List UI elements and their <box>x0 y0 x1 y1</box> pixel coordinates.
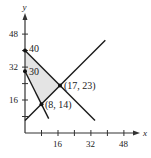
label-17-23: (17, 23) <box>64 80 96 92</box>
x-tick-label-16: 16 <box>53 139 63 149</box>
label-8-14: (8, 14) <box>45 99 72 111</box>
feasible-region-graph: y x 16 32 48 16 32 48 40 30 (17, 23) (8,… <box>0 0 151 158</box>
point-17-23 <box>58 84 62 88</box>
y-axis-arrow-icon <box>23 13 28 20</box>
y-tick-label-32: 32 <box>9 62 18 72</box>
x-axis-label: x <box>142 128 147 138</box>
y-tick-label-16: 16 <box>9 95 19 105</box>
point-0-30 <box>23 69 27 73</box>
y-axis-label: y <box>22 2 27 12</box>
point-8-14 <box>40 102 44 106</box>
point-0-40 <box>23 49 27 53</box>
y-tick-label-48: 48 <box>9 29 19 39</box>
shaded-region <box>25 51 60 105</box>
x-tick-label-32: 32 <box>86 139 95 149</box>
x-tick-label-48: 48 <box>119 139 129 149</box>
label-40: 40 <box>29 43 39 54</box>
label-30: 30 <box>29 66 39 77</box>
x-axis-arrow-icon <box>133 131 140 136</box>
